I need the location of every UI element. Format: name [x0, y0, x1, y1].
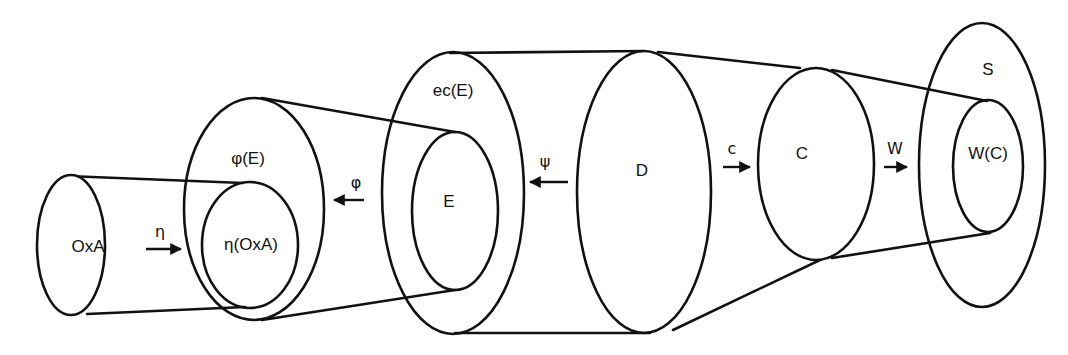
label-eta-oxa: η(OxA) [224, 235, 278, 254]
set-d-ellipse [577, 51, 711, 333]
mapping-c: c [723, 139, 750, 168]
mapping-eta: η [146, 222, 181, 250]
mapping-label-c: c [728, 139, 737, 158]
mapping-psi: ψ [530, 152, 568, 183]
label-c: C [796, 144, 808, 163]
label-w-c: W(C) [968, 144, 1008, 163]
connector-dc-bottom [673, 260, 820, 330]
connector-ecd-top [450, 51, 643, 53]
set-mapping-diagram: OxA η(OxA) φ(E) ec(E) E D C S W(C) η φ ψ… [0, 0, 1068, 355]
mapping-label-phi: φ [351, 173, 362, 192]
connector-cw-top [832, 70, 987, 101]
connector-cw-bottom [832, 233, 990, 258]
label-oxa: OxA [71, 237, 105, 256]
mapping-w: W [884, 139, 907, 168]
mapping-label-w: W [887, 139, 903, 158]
label-s: S [982, 60, 993, 79]
set-c-ellipse [758, 68, 874, 260]
set-e-ellipse [412, 132, 498, 290]
label-e: E [443, 192, 454, 211]
label-phi-e: φ(E) [231, 149, 265, 168]
mapping-label-psi: ψ [540, 152, 551, 171]
mapping-label-eta: η [155, 222, 165, 241]
connector-dc-top [658, 52, 800, 68]
diagram-svg: OxA η(OxA) φ(E) ec(E) E D C S W(C) η φ ψ… [0, 0, 1068, 355]
label-ec-e: ec(E) [433, 81, 474, 100]
mapping-phi: φ [334, 173, 364, 201]
set-phi-e-ellipse [184, 98, 324, 320]
connector-oxa-top [67, 176, 243, 183]
set-w-c-ellipse [953, 100, 1023, 232]
label-d: D [636, 161, 648, 180]
